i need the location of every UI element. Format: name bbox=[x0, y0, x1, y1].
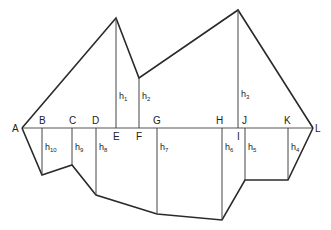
point-label-E: E bbox=[113, 131, 120, 142]
point-label-A: A bbox=[12, 123, 19, 134]
offset-diagram: A B C D E F G H I J K L h1 h2 h3 h4 h5 h… bbox=[0, 0, 331, 230]
point-label-I: I bbox=[237, 131, 240, 142]
point-label-H: H bbox=[216, 115, 223, 126]
offset-lines bbox=[42, 10, 288, 220]
lower-boundary bbox=[22, 128, 313, 220]
offset-label-h1: h1 bbox=[119, 91, 128, 102]
offset-label-h9: h9 bbox=[75, 142, 84, 153]
point-label-F: F bbox=[136, 131, 142, 142]
point-label-L: L bbox=[315, 123, 321, 134]
point-label-G: G bbox=[153, 115, 161, 126]
point-label-B: B bbox=[39, 115, 46, 126]
offset-label-h4: h4 bbox=[291, 142, 300, 153]
upper-boundary bbox=[22, 10, 313, 128]
offset-label-h3: h3 bbox=[241, 89, 250, 100]
upper-boundary-line bbox=[22, 10, 313, 128]
offset-label-h10: h10 bbox=[45, 142, 57, 153]
offset-label-h6: h6 bbox=[225, 142, 234, 153]
lower-boundary-line bbox=[22, 128, 313, 220]
offset-label-h7: h7 bbox=[160, 142, 169, 153]
offset-label-h5: h5 bbox=[248, 142, 257, 153]
point-label-J: J bbox=[242, 115, 247, 126]
point-label-D: D bbox=[92, 115, 99, 126]
point-label-K: K bbox=[284, 115, 291, 126]
point-label-C: C bbox=[69, 115, 76, 126]
offset-label-h8: h8 bbox=[99, 142, 108, 153]
offset-labels: h1 h2 h3 h4 h5 h6 h7 h8 h9 h10 bbox=[45, 89, 300, 153]
offset-label-h2: h2 bbox=[142, 91, 151, 102]
